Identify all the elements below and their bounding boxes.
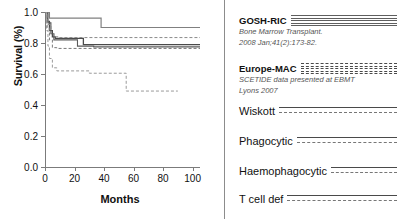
curve-phagocytic xyxy=(45,12,200,47)
swatch-dashed-line xyxy=(279,112,397,113)
plot-area: 0.00.20.40.60.81.0 020406080100 xyxy=(45,12,200,167)
x-tick-label: 40 xyxy=(98,173,109,184)
legend-entry-header: Haemophagocytic xyxy=(239,165,397,177)
legend-entry[interactable]: Haemophagocytic xyxy=(239,165,397,177)
swatch-line xyxy=(301,66,397,67)
legend-citation-line: 2008 Jan;41(2):173-82. xyxy=(239,38,397,48)
x-tick-mark xyxy=(104,167,105,171)
legend-label: Phagocytic xyxy=(239,135,293,147)
swatch-line xyxy=(291,23,398,24)
legend-label: Europe-MAC xyxy=(239,63,297,74)
legend-swatch-dashed-lines-icon xyxy=(301,62,397,74)
legend-swatch-pair-icon xyxy=(287,195,397,204)
legend-swatch-solid-lines-icon xyxy=(291,14,398,26)
x-tick-mark xyxy=(45,167,46,171)
legend-entry-header: Phagocytic xyxy=(239,135,397,147)
y-tick-label: 0.6 xyxy=(24,69,38,80)
swatch-line xyxy=(301,63,397,64)
legend-entry[interactable]: T cell def xyxy=(239,193,397,205)
legend-swatch-pair-icon xyxy=(279,107,397,116)
x-tick-label: 60 xyxy=(128,173,139,184)
swatch-line xyxy=(301,73,397,74)
legend-citation-line: SCETIDE data presented at EBMT xyxy=(239,75,397,85)
y-tick-label: 1.0 xyxy=(24,7,38,18)
x-tick-mark xyxy=(163,167,164,171)
x-tick-label: 100 xyxy=(184,173,201,184)
y-tick-label: 0.2 xyxy=(24,131,38,142)
legend-entry-header: GOSH-RIC xyxy=(239,14,397,26)
legend-label: GOSH-RIC xyxy=(239,15,287,26)
legend-entry[interactable]: Europe-MACSCETIDE data presented at EBMT… xyxy=(239,62,397,96)
y-axis-title: Survival (%) xyxy=(12,1,24,111)
curve-haemophagocytic xyxy=(45,12,200,38)
swatch-line xyxy=(301,68,397,69)
curve-europe-mac xyxy=(45,12,178,91)
x-tick-mark xyxy=(75,167,76,171)
x-tick-mark xyxy=(134,167,135,171)
swatch-line xyxy=(291,25,398,26)
swatch-solid-line xyxy=(279,107,397,108)
swatch-line xyxy=(291,15,398,16)
legend-label: Wiskott xyxy=(239,105,275,117)
y-tick-label: 0.8 xyxy=(24,38,38,49)
legend-entry-header: Wiskott xyxy=(239,105,397,117)
x-tick-mark xyxy=(193,167,194,171)
y-tick-label: 0.0 xyxy=(24,162,38,173)
curve-gosh-ric xyxy=(45,12,200,28)
x-axis-title: Months xyxy=(40,193,200,205)
figure-root: Survival (%) Months 0.00.20.40.60.81.0 0… xyxy=(0,0,401,219)
x-axis-line xyxy=(45,167,200,168)
curve-t-cell-def xyxy=(45,12,200,48)
swatch-line xyxy=(301,71,397,72)
swatch-dashed-line xyxy=(287,200,397,201)
survival-chart: Survival (%) Months 0.00.20.40.60.81.0 0… xyxy=(0,0,222,219)
legend-entry-header: Europe-MAC xyxy=(239,62,397,74)
x-tick-label: 0 xyxy=(42,173,48,184)
swatch-solid-line xyxy=(297,137,397,138)
swatch-line xyxy=(291,18,398,19)
x-tick-label: 20 xyxy=(69,173,80,184)
x-tick-label: 80 xyxy=(158,173,169,184)
legend-citation-line: Bone Marrow Transplant. xyxy=(239,27,397,37)
swatch-solid-line xyxy=(287,195,397,196)
swatch-dashed-line xyxy=(331,172,397,173)
legend-label: T cell def xyxy=(239,193,283,205)
legend-panel: GOSH-RICBone Marrow Transplant.2008 Jan;… xyxy=(224,0,401,219)
legend-citation-line: Lyons 2007 xyxy=(239,86,397,96)
legend-swatch-pair-icon xyxy=(297,137,397,146)
legend-entry[interactable]: GOSH-RICBone Marrow Transplant.2008 Jan;… xyxy=(239,14,397,48)
swatch-line xyxy=(291,20,398,21)
swatch-solid-line xyxy=(331,167,397,168)
survival-curves xyxy=(45,12,200,167)
legend-entry[interactable]: Phagocytic xyxy=(239,135,397,147)
swatch-dashed-line xyxy=(297,142,397,143)
legend-swatch-pair-icon xyxy=(331,167,397,176)
y-tick-label: 0.4 xyxy=(24,100,38,111)
legend-entry[interactable]: Wiskott xyxy=(239,105,397,117)
legend-entry-header: T cell def xyxy=(239,193,397,205)
legend-label: Haemophagocytic xyxy=(239,165,327,177)
